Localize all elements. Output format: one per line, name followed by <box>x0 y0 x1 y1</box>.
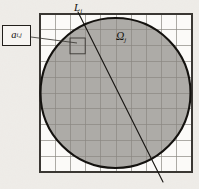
callout-label-a: ai,j <box>3 26 30 45</box>
region-label-omega: Ωj <box>116 31 126 44</box>
callout-box: ai,j <box>2 25 31 46</box>
figure-container: Li Ωj ai,j <box>0 0 199 189</box>
ray-label-L: Li <box>74 2 82 15</box>
callout-label-subscript: i,j <box>17 32 22 39</box>
ray-label-subscript: i <box>80 7 82 14</box>
region-label-subscript: j <box>124 36 126 44</box>
